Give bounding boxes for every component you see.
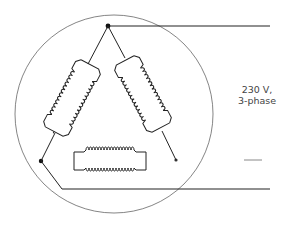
winding-bottom	[74, 147, 146, 171]
winding-left	[41, 26, 108, 161]
motor-housing-circle	[15, 15, 213, 213]
wiring-diagram: 230 V, 3-phase	[0, 0, 285, 226]
supply-label: 230 V, 3-phase	[232, 84, 282, 106]
left-node-lead	[41, 161, 62, 189]
delta-connection-svg	[0, 0, 285, 226]
voltage-label: 230 V,	[232, 84, 282, 95]
winding-right	[108, 26, 176, 160]
phase-label: 3-phase	[232, 95, 282, 106]
